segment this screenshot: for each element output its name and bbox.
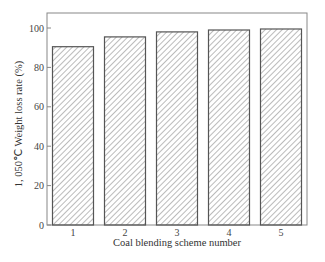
y-tick-label: 80 [34, 62, 44, 73]
y-tick-label: 20 [34, 180, 44, 191]
bar-2 [105, 37, 146, 225]
bar-5 [261, 29, 302, 225]
y-axis-ticks: 020406080100 [29, 23, 51, 231]
x-axis-label: Coal blending scheme number [113, 237, 242, 248]
bar-1 [53, 47, 94, 225]
x-tick-label: 1 [71, 227, 76, 238]
bar-chart: 020406080100 12345 Coal blending scheme … [0, 0, 325, 262]
bar-3 [157, 32, 198, 225]
x-tick-label: 5 [279, 227, 284, 238]
y-tick-label: 40 [34, 141, 44, 152]
bars [53, 29, 302, 225]
y-axis-label: 1, 050℃ Weight loss rate (%) [13, 60, 25, 187]
y-tick-label: 0 [39, 220, 44, 231]
y-tick-label: 60 [34, 101, 44, 112]
y-tick-label: 100 [29, 23, 44, 34]
bar-4 [209, 30, 250, 225]
